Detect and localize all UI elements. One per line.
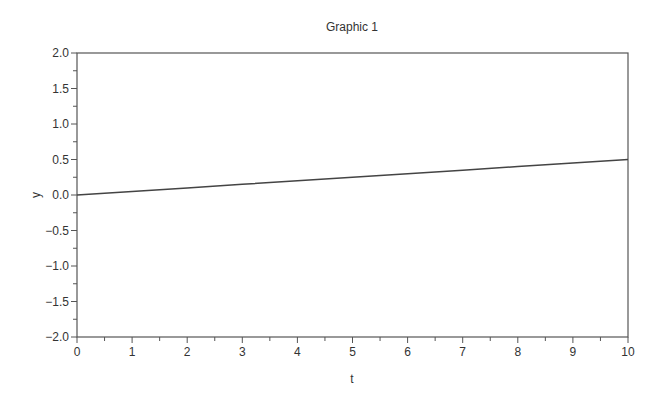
x-axis: 012345678910 <box>74 337 635 359</box>
chart-title: Graphic 1 <box>326 20 378 34</box>
plot-border <box>77 53 628 337</box>
series-layer <box>77 160 628 196</box>
x-tick-label: 10 <box>621 345 635 359</box>
y-tick-label: 1.0 <box>52 117 69 131</box>
x-tick-label: 9 <box>570 345 577 359</box>
y-tick-label: −2.0 <box>45 330 69 344</box>
x-tick-label: 6 <box>404 345 411 359</box>
y-tick-label: 0.0 <box>52 188 69 202</box>
y-tick-label: −0.5 <box>45 224 69 238</box>
y-tick-label: −1.5 <box>45 295 69 309</box>
x-tick-label: 5 <box>349 345 356 359</box>
data-line <box>77 160 628 196</box>
x-tick-label: 1 <box>129 345 136 359</box>
x-tick-label: 8 <box>514 345 521 359</box>
y-tick-label: 0.5 <box>52 153 69 167</box>
x-tick-label: 7 <box>459 345 466 359</box>
y-tick-label: 2.0 <box>52 46 69 60</box>
plot-frame <box>77 53 628 337</box>
x-tick-label: 3 <box>239 345 246 359</box>
y-tick-label: −1.0 <box>45 259 69 273</box>
x-tick-label: 0 <box>74 345 81 359</box>
x-tick-label: 4 <box>294 345 301 359</box>
x-axis-label: t <box>350 372 354 386</box>
y-tick-label: 1.5 <box>52 82 69 96</box>
line-chart: Graphic 1 2.01.51.00.50.0−0.5−1.0−1.5−2.… <box>0 0 667 399</box>
y-axis: 2.01.51.00.50.0−0.5−1.0−1.5−2.0 <box>45 46 77 344</box>
x-tick-label: 2 <box>184 345 191 359</box>
y-axis-label: y <box>29 192 43 198</box>
